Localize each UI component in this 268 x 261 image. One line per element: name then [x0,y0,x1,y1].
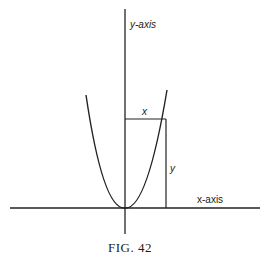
figure-caption: FIG. 42 [108,240,152,255]
parabola-diagram: y-axis x-axis x y FIG. 42 [0,0,268,261]
y-axis-label: y-axis [129,19,156,30]
parabola-curve [86,90,167,208]
y-segment-label: y [169,163,176,174]
x-segment-label: x [141,106,148,117]
x-axis-label: x-axis [197,194,223,205]
